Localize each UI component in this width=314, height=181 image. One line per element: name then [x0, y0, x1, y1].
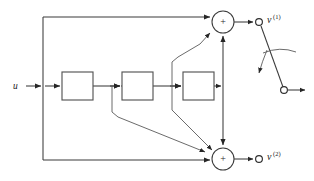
output-top-label: v	[267, 14, 272, 25]
output-bottom-label: v	[267, 151, 272, 162]
block-2	[122, 72, 153, 100]
summer-top-sign: +	[220, 16, 226, 27]
block-3	[183, 72, 214, 100]
block-diagram-figure: + + u v (1)	[0, 0, 314, 181]
summer-bottom-output-wire	[234, 156, 262, 163]
terminal-v2	[256, 156, 263, 163]
terminal-v1	[256, 19, 263, 26]
block-1	[62, 72, 93, 100]
summer-top-output-wire	[234, 19, 262, 26]
summer-top: +	[212, 11, 234, 33]
changeover-switch	[259, 26, 305, 93]
output-top-superscript: (1)	[273, 13, 281, 21]
summer-bottom: +	[212, 148, 234, 170]
label-v2: v (2)	[267, 150, 281, 162]
summer-bottom-sign: +	[220, 153, 226, 164]
switch-pole-terminal	[281, 87, 288, 94]
diagram-canvas: + + u v (1)	[0, 0, 314, 181]
input-label: u	[13, 81, 18, 91]
label-v1: v (1)	[267, 13, 281, 25]
label-input-u: u	[13, 81, 18, 91]
output-bottom-superscript: (2)	[273, 150, 281, 158]
